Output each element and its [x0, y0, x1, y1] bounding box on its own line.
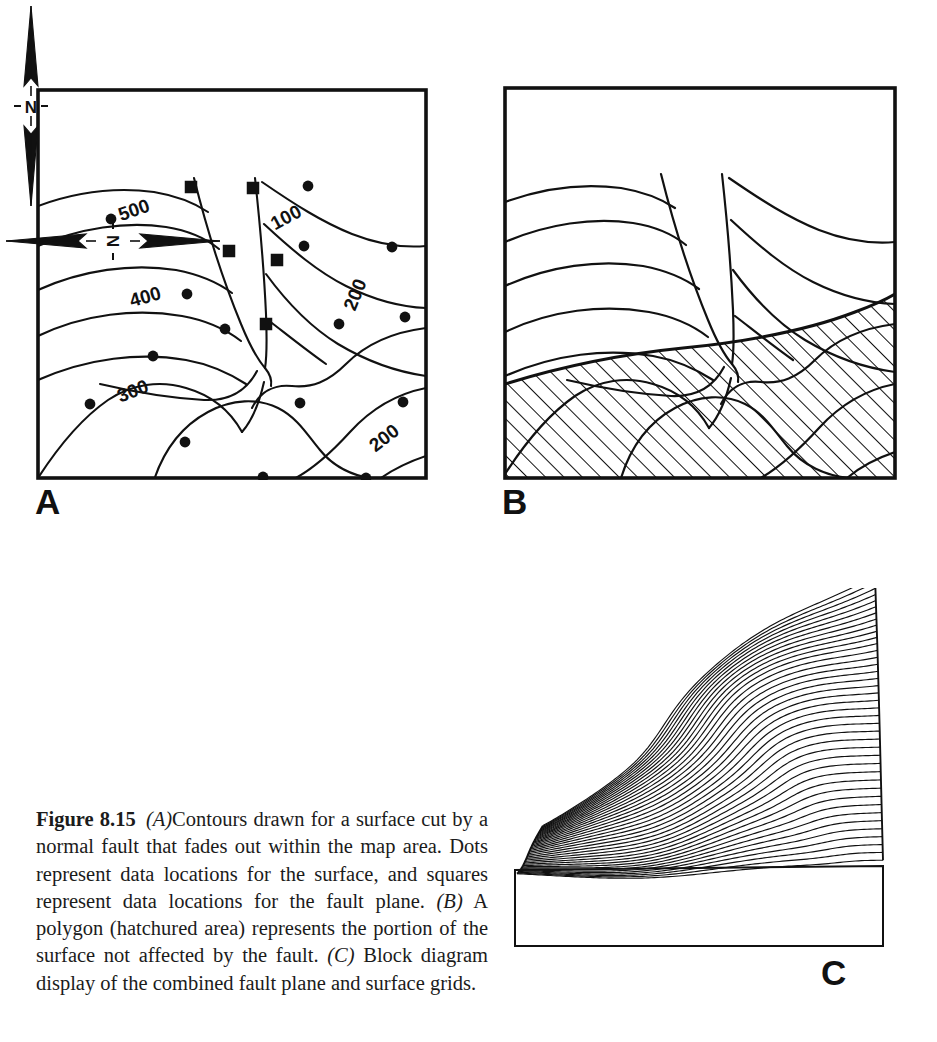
panel-a-svg: 500 100 400 200 300 200 — [36, 88, 428, 480]
panel-a-letter: A — [35, 484, 60, 519]
contour-label-400: 400 — [127, 282, 163, 311]
caption-run: (A) — [146, 808, 172, 830]
fault-data-point — [260, 318, 273, 331]
panel-b-hatchured-polygon-map — [503, 86, 897, 480]
panel-c-surface-mesh — [517, 588, 883, 878]
surface-data-point — [303, 181, 314, 192]
surface-data-point — [387, 242, 398, 253]
contour-label-200-s: 200 — [365, 420, 403, 456]
panel-c-svg — [503, 588, 903, 958]
panel-a-contour-map: 500 100 400 200 300 200 — [36, 88, 428, 480]
fault-data-point — [271, 254, 284, 267]
surface-data-point — [299, 241, 310, 252]
panel-b-hatchured-area — [503, 86, 897, 480]
figure-caption: Figure 8.15 (A)Contours drawn for a surf… — [36, 806, 488, 997]
surface-data-point — [148, 351, 159, 362]
caption-run: (C) — [327, 944, 354, 966]
figure-8-15: 500 100 400 200 300 200 A — [0, 0, 937, 1042]
caption-run — [136, 808, 146, 830]
contour-label-500: 500 — [115, 195, 152, 225]
surface-data-point — [334, 319, 345, 330]
panel-c-block-diagram — [503, 588, 903, 958]
surface-data-point — [295, 398, 306, 409]
panel-c-letter: C — [821, 955, 846, 990]
surface-data-point — [182, 289, 193, 300]
panel-c-base-block — [515, 866, 883, 946]
caption-run: Figure 8.15 — [36, 808, 136, 830]
contour-label-300: 300 — [114, 375, 151, 406]
surface-data-point — [400, 312, 411, 323]
panel-a-contour-labels: 500 100 400 200 300 200 — [114, 195, 403, 456]
contour-label-200-n: 200 — [339, 276, 370, 313]
surface-data-point — [220, 324, 231, 335]
caption-run: (B) — [437, 890, 463, 912]
surface-data-point — [398, 397, 409, 408]
surface-data-point — [180, 437, 191, 448]
fault-data-point — [185, 181, 198, 194]
panel-b-letter: B — [502, 484, 527, 519]
fault-data-point — [247, 182, 260, 195]
panel-a-contours — [38, 178, 426, 480]
panel-b-svg — [503, 86, 897, 480]
surface-data-point — [85, 399, 96, 410]
surface-data-point — [106, 214, 117, 225]
fault-data-point — [223, 245, 236, 258]
